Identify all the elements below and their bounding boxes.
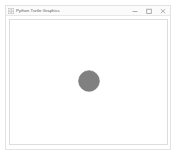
maximize-icon bbox=[142, 6, 156, 16]
turtle-app-icon bbox=[8, 8, 14, 14]
close-button[interactable] bbox=[156, 6, 170, 16]
minimize-icon bbox=[128, 6, 142, 16]
drawn-circle-shape bbox=[79, 71, 100, 92]
turtle-graphics-window: Python Turtle Graphics bbox=[6, 6, 170, 149]
window-titlebar[interactable]: Python Turtle Graphics bbox=[6, 6, 170, 16]
window-title: Python Turtle Graphics bbox=[16, 8, 126, 13]
drawn-shapes-layer bbox=[10, 20, 167, 144]
canvas-frame bbox=[6, 16, 170, 149]
turtle-drawing-canvas[interactable] bbox=[9, 19, 168, 145]
close-icon bbox=[156, 6, 170, 16]
maximize-button[interactable] bbox=[142, 6, 156, 16]
window-controls bbox=[128, 6, 170, 16]
minimize-button[interactable] bbox=[128, 6, 142, 16]
